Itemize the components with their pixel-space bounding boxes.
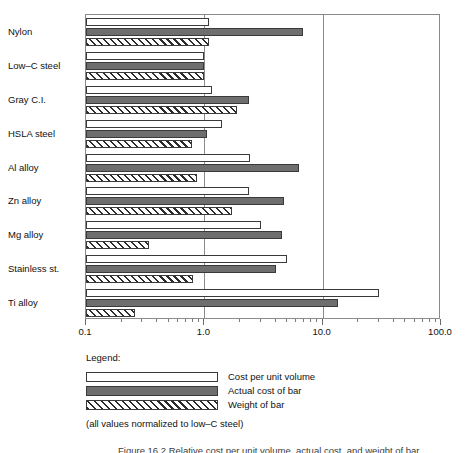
bar-chart: NylonLow–C steelGray C.I.HSLA steelAl al… <box>0 0 465 340</box>
x-tick-minor <box>303 319 304 322</box>
x-tick-minor <box>185 319 186 322</box>
bar <box>86 18 209 26</box>
category-label: Al alloy <box>8 161 39 172</box>
bar <box>86 38 209 46</box>
x-tick-label: 0.1 <box>78 326 91 337</box>
normalized-note: (all values normalized to low–C steel) <box>86 418 243 429</box>
x-tick-minor <box>393 319 394 322</box>
bar <box>86 52 204 60</box>
x-tick-minor <box>378 319 379 322</box>
bar <box>86 154 250 162</box>
bar <box>86 207 232 215</box>
bar <box>86 28 303 36</box>
x-tick-minor <box>310 319 311 322</box>
category-label: Mg alloy <box>8 229 43 240</box>
x-tick-minor <box>156 319 157 322</box>
bar <box>86 197 284 205</box>
x-tick-minor <box>316 319 317 322</box>
bar <box>86 299 338 307</box>
x-tick-minor <box>198 319 199 322</box>
bar <box>86 140 192 148</box>
plot-frame <box>85 14 440 319</box>
bar <box>86 289 379 297</box>
category-label: HSLA steel <box>8 127 55 138</box>
legend-label: Weight of bar <box>228 399 284 410</box>
bar <box>86 62 204 70</box>
bar <box>86 309 135 317</box>
x-tick-minor <box>239 319 240 322</box>
legend-title: Legend: <box>86 352 120 363</box>
x-tick-minor <box>295 319 296 322</box>
bar <box>86 106 237 114</box>
category-label: Gray C.I. <box>8 93 46 104</box>
x-tick-minor <box>286 319 287 322</box>
x-tick-minor <box>414 319 415 322</box>
bar <box>86 241 149 249</box>
legend-label: Actual cost of bar <box>228 385 301 396</box>
x-tick-label: 100.0 <box>428 326 452 337</box>
x-tick-major <box>440 319 441 325</box>
category-label: Stainless st. <box>8 263 59 274</box>
legend-swatch <box>86 372 218 382</box>
x-tick-minor <box>435 319 436 322</box>
bar <box>86 72 204 80</box>
x-tick-minor <box>357 319 358 322</box>
gridline-10 <box>323 15 324 318</box>
legend-swatch <box>86 400 218 410</box>
x-tick-label: 1.0 <box>197 326 210 337</box>
x-tick-minor <box>192 319 193 322</box>
legend-label: Cost per unit volume <box>228 371 315 382</box>
x-tick-minor <box>121 319 122 322</box>
x-tick-minor <box>168 319 169 322</box>
x-tick-minor <box>429 319 430 322</box>
category-label: Nylon <box>8 25 32 36</box>
bar <box>86 265 276 273</box>
legend-swatch <box>86 386 218 396</box>
category-label: Ti alloy <box>8 297 38 308</box>
bar <box>86 96 249 104</box>
bar <box>86 187 249 195</box>
bar <box>86 275 193 283</box>
x-tick-label: 10.0 <box>312 326 331 337</box>
x-tick-major <box>203 319 204 325</box>
bar <box>86 130 207 138</box>
x-tick-minor <box>404 319 405 322</box>
bar <box>86 174 197 182</box>
x-axis: 0.11.010.0100.0 <box>85 319 440 341</box>
bar <box>86 120 222 128</box>
x-tick-minor <box>275 319 276 322</box>
bar <box>86 221 261 229</box>
bar <box>86 231 282 239</box>
x-tick-minor <box>260 319 261 322</box>
x-tick-major <box>85 319 86 325</box>
figure-caption: Figure 16.2 Relative cost per unit volum… <box>118 445 420 453</box>
x-tick-minor <box>141 319 142 322</box>
x-tick-minor <box>177 319 178 322</box>
category-label: Low–C steel <box>8 59 60 70</box>
bar <box>86 255 287 263</box>
bar <box>86 164 299 172</box>
x-tick-major <box>322 319 323 325</box>
category-label: Zn alloy <box>8 195 41 206</box>
bar <box>86 86 212 94</box>
x-tick-minor <box>422 319 423 322</box>
